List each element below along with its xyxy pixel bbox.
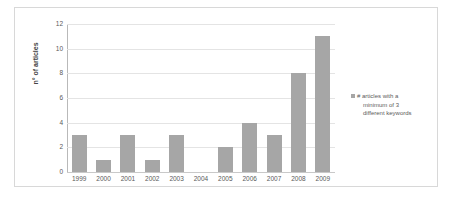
bar xyxy=(315,36,330,172)
bar xyxy=(291,73,306,172)
y-tick-label: 4 xyxy=(23,119,63,126)
legend: # articles with a minimum of 3 different… xyxy=(351,92,435,118)
bar xyxy=(96,160,111,172)
y-axis-tick-labels: 12 10 8 6 4 2 0 xyxy=(19,24,63,172)
x-tick-label: 2002 xyxy=(140,176,164,183)
chart-frame: n° of articles 12 10 8 6 4 2 0 199920002… xyxy=(14,7,438,187)
legend-entry-text: # articles with a xyxy=(357,93,398,99)
x-tick-label: 2001 xyxy=(116,176,140,183)
x-axis-tick-labels: 1999200020012002200320042005200620072008… xyxy=(67,176,335,188)
bar xyxy=(72,135,87,172)
gridline xyxy=(67,24,335,25)
x-tick-label: 1999 xyxy=(67,176,91,183)
y-tick-label: 12 xyxy=(23,21,63,28)
legend-entry-line-1: # articles with a xyxy=(351,92,435,101)
y-tick-label: 0 xyxy=(23,169,63,176)
x-tick-label: 2000 xyxy=(91,176,115,183)
x-tick-label: 2009 xyxy=(311,176,335,183)
y-tick-label: 8 xyxy=(23,70,63,77)
y-tick-label: 6 xyxy=(23,95,63,102)
x-tick-label: 2005 xyxy=(213,176,237,183)
legend-swatch-icon xyxy=(351,94,355,98)
x-tick-label: 2007 xyxy=(262,176,286,183)
bar xyxy=(242,123,257,172)
plot-area xyxy=(67,24,335,172)
x-tick-label: 2004 xyxy=(189,176,213,183)
x-tick-label: 2008 xyxy=(286,176,310,183)
x-tick-label: 2006 xyxy=(238,176,262,183)
bar xyxy=(267,135,282,172)
x-tick-label: 2003 xyxy=(164,176,188,183)
legend-entry-line-3: different keywords xyxy=(351,109,435,118)
bar xyxy=(120,135,135,172)
bar xyxy=(169,135,184,172)
gridline xyxy=(67,49,335,50)
bar xyxy=(218,147,233,172)
legend-entry-line-2: minimum of 3 xyxy=(351,101,435,110)
bar xyxy=(145,160,160,172)
y-tick-label: 2 xyxy=(23,144,63,151)
axis-baseline xyxy=(67,172,335,173)
y-tick-label: 10 xyxy=(23,45,63,52)
